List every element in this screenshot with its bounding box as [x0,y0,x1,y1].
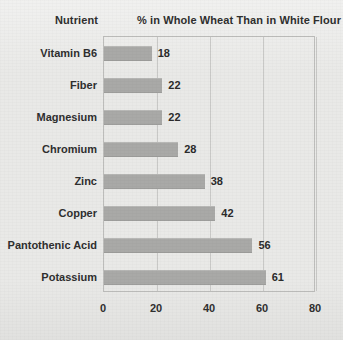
bar-row: Magnesium22 [104,101,314,133]
x-tick-label: 60 [256,302,268,314]
category-label: Copper [59,207,98,219]
bar [104,270,266,285]
category-label: Fiber [70,79,97,91]
bar [104,174,205,189]
category-label: Zinc [74,175,97,187]
bar-row: Potassium61 [104,261,314,293]
bar [104,110,162,125]
bar [104,46,152,61]
bar-row: Vitamin B618 [104,37,314,69]
x-axis: 020406080 [103,292,315,318]
category-label: Vitamin B6 [40,47,97,59]
value-column-header: % in Whole Wheat Than in White Flour [137,14,341,26]
x-tick-label: 20 [150,302,162,314]
category-label: Potassium [41,271,97,283]
x-tick-label: 0 [100,302,106,314]
bar [104,206,215,221]
bar-row: Zinc38 [104,165,314,197]
bar-value-label: 42 [221,207,233,219]
bar-value-label: 38 [211,175,223,187]
category-label: Chromium [42,143,97,155]
bar-row: Fiber22 [104,69,314,101]
category-column-header: Nutrient [55,14,98,26]
bar [104,238,252,253]
bar-value-label: 56 [258,239,270,251]
bar-row: Pantothenic Acid56 [104,229,314,261]
plot-area: Vitamin B618Fiber22Magnesium22Chromium28… [103,36,315,292]
category-label: Pantothenic Acid [8,239,97,251]
bar-row: Copper42 [104,197,314,229]
bar-row: Chromium28 [104,133,314,165]
bar-value-label: 22 [168,111,180,123]
bar-value-label: 61 [272,271,284,283]
bar [104,142,178,157]
bar-value-label: 28 [184,143,196,155]
bar-chart: Nutrient % in Whole Wheat Than in White … [0,0,343,340]
bar-rows: Vitamin B618Fiber22Magnesium22Chromium28… [104,37,314,291]
gridline-80 [316,37,317,291]
x-tick-label: 80 [309,302,321,314]
bar [104,78,162,93]
category-label: Magnesium [36,111,97,123]
bar-value-label: 22 [168,79,180,91]
x-tick-label: 40 [203,302,215,314]
bar-value-label: 18 [158,47,170,59]
